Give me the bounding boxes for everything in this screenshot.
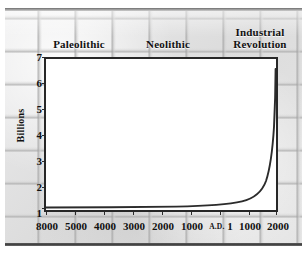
x-tick-3000: 3000 <box>123 220 145 232</box>
population-curve <box>46 69 276 208</box>
x-tick-mark-8000 <box>46 212 47 215</box>
y-tick-6: 6 <box>28 78 42 89</box>
x-tick-mark-4000 <box>104 212 105 215</box>
panel-top-edge <box>5 8 302 11</box>
era-label-industrial-revolution: Industrial Revolution <box>216 26 304 50</box>
x-tick-mark-3000 <box>133 212 134 215</box>
x-tick-mark-1000ad <box>249 212 250 215</box>
panel-bottom-edge <box>5 243 302 246</box>
era-label-paleolithic: Paleolithic <box>34 38 124 50</box>
population-growth-figure: Paleolithic Neolithic Industrial Revolut… <box>0 0 307 260</box>
x-tick-ad-prefix: A.D. <box>209 222 224 231</box>
era-label-neolithic: Neolithic <box>125 38 211 50</box>
x-tick-ad1: A.D. 1 <box>209 220 233 232</box>
x-tick-mark-1000bc <box>191 212 192 215</box>
x-tick-5000: 5000 <box>65 220 87 232</box>
x-tick-ad-value: 1 <box>227 220 233 232</box>
plot-area <box>44 57 278 212</box>
x-tick-8000: 8000 <box>36 220 58 232</box>
y-axis-tick-labels: 7 6 5 4 3 2 1 <box>26 52 42 217</box>
x-tick-mark-ad1 <box>220 212 221 215</box>
y-axis-title: Billions <box>15 94 26 158</box>
x-tick-mark-5000 <box>75 212 76 215</box>
x-tick-mark-2000ad <box>276 212 277 215</box>
x-tick-4000: 4000 <box>94 220 116 232</box>
x-tick-2000bc: 2000 <box>152 220 174 232</box>
y-tick-7: 7 <box>28 52 42 63</box>
x-tick-2000ad: 2000 <box>267 220 289 232</box>
y-tick-2: 2 <box>28 182 42 193</box>
x-tick-mark-2000bc <box>162 212 163 215</box>
y-tick-1: 1 <box>28 208 42 219</box>
population-curve-svg <box>46 59 276 210</box>
x-tick-1000bc: 1000 <box>181 220 203 232</box>
y-tick-4: 4 <box>28 130 42 141</box>
y-tick-5: 5 <box>28 104 42 115</box>
x-tick-1000ad: 1000 <box>239 220 261 232</box>
y-tick-3: 3 <box>28 156 42 167</box>
